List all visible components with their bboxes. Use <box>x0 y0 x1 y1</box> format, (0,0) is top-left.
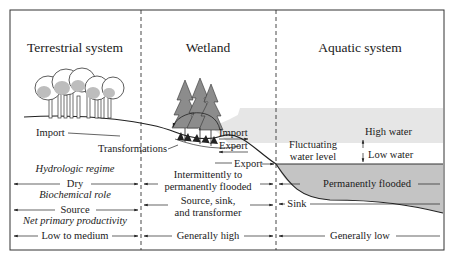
hydrologic-regime-heading: Hydrologic regime <box>35 163 115 174</box>
fluctuating-label-2: water level <box>290 151 336 162</box>
low-water-label: Low water <box>368 149 414 160</box>
wetland-hydro-value-2: permanently flooded <box>164 181 252 192</box>
npp-row: Low to medium Generally high Generally l… <box>14 230 440 241</box>
biochemical-role-heading: Biochemical role <box>39 189 111 200</box>
import-wetland-label: Import <box>219 127 248 138</box>
npp-heading: Net primary productivity <box>22 215 127 226</box>
wetland-hydro-value-1: Intermittently to <box>174 169 243 180</box>
terrestrial-title: Terrestrial system <box>27 40 124 55</box>
wetland-title: Wetland <box>186 40 231 55</box>
terrestrial-npp-value: Low to medium <box>41 230 108 241</box>
wetland-bio-value-1: Source, sink, <box>181 195 236 206</box>
aquatic-title: Aquatic system <box>318 40 402 55</box>
wetland-bio-value-2: and transformer <box>175 207 242 218</box>
wetland-npp-value: Generally high <box>177 230 240 241</box>
aquatic-npp-value: Generally low <box>330 230 390 241</box>
transformations-label: Transformations <box>98 143 167 154</box>
aquatic-bio-value: Sink <box>287 198 307 209</box>
export-wetland-label: Export <box>219 140 248 151</box>
high-water-label: High water <box>365 126 412 137</box>
fluctuating-label-1: Fluctuating <box>289 139 338 150</box>
wetland-diagram: Terrestrial system Wetland Aquatic syste… <box>0 0 454 265</box>
aquatic-hydro-value: Permanently flooded <box>323 178 412 189</box>
import-terrestrial-label: Import <box>36 127 65 138</box>
terrestrial-bio-value: Source <box>60 204 89 215</box>
export-lower-label: Export <box>234 158 263 169</box>
terrestrial-hydro-value: Dry <box>67 178 84 189</box>
